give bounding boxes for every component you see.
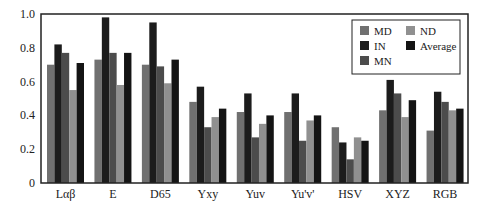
y-tick-label: 0 <box>29 176 35 190</box>
bar-average-6 <box>361 141 368 183</box>
legend-swatch-md <box>360 26 369 35</box>
x-tick-label: Lαβ <box>56 187 76 201</box>
bar-in-8 <box>434 92 441 183</box>
bar-md-5 <box>284 112 291 183</box>
bar-average-7 <box>409 100 416 183</box>
x-tick-label: E <box>109 187 116 201</box>
y-tick-label: 0.4 <box>20 108 35 122</box>
bar-md-8 <box>427 131 434 183</box>
bar-average-1 <box>124 53 131 183</box>
bar-in-6 <box>339 142 346 183</box>
bar-mn-4 <box>252 137 259 183</box>
bar-average-0 <box>77 63 84 183</box>
legend: MDNDINAverageMN <box>352 20 460 74</box>
bar-nd-0 <box>69 90 76 183</box>
y-tick-label: 0.6 <box>20 75 35 89</box>
bar-mn-6 <box>346 159 353 183</box>
x-tick-label: HSV <box>338 187 362 201</box>
bar-nd-8 <box>449 110 456 183</box>
legend-label-average: Average <box>420 40 457 52</box>
bar-nd-1 <box>117 85 124 183</box>
bar-average-3 <box>219 109 226 183</box>
bar-in-5 <box>292 93 299 183</box>
x-tick-label: D65 <box>150 187 171 201</box>
bar-nd-3 <box>212 117 219 183</box>
bar-average-4 <box>266 115 273 183</box>
bar-in-7 <box>387 80 394 183</box>
legend-swatch-average <box>406 41 415 50</box>
bar-in-0 <box>54 44 61 183</box>
bar-chart: 00.20.40.60.81.0 LαβED65YxyYuvYu'v'HSVXY… <box>0 0 493 206</box>
bar-mn-1 <box>109 53 116 183</box>
legend-swatch-in <box>360 41 369 50</box>
bar-mn-8 <box>441 102 448 183</box>
bar-average-2 <box>171 60 178 183</box>
bar-average-8 <box>456 109 463 183</box>
x-axis-ticks: LαβED65YxyYuvYu'v'HSVXYZRGB <box>56 187 458 201</box>
bar-md-7 <box>379 110 386 183</box>
legend-label-md: MD <box>374 25 392 37</box>
x-tick-label: Yu'v' <box>291 187 315 201</box>
bar-nd-4 <box>259 124 266 183</box>
bar-in-3 <box>197 87 204 183</box>
bar-average-5 <box>314 115 321 183</box>
bar-md-2 <box>142 65 149 183</box>
x-tick-label: RGB <box>433 187 458 201</box>
legend-swatch-mn <box>360 56 369 65</box>
bar-mn-2 <box>157 66 164 183</box>
bar-md-6 <box>332 127 339 183</box>
bar-mn-5 <box>299 141 306 183</box>
x-tick-label: XYZ <box>385 187 410 201</box>
bar-md-0 <box>47 65 54 183</box>
bar-nd-6 <box>354 137 361 183</box>
bar-mn-7 <box>394 93 401 183</box>
legend-swatch-nd <box>406 26 415 35</box>
bar-in-2 <box>149 22 156 183</box>
bar-mn-0 <box>62 53 69 183</box>
legend-label-in: IN <box>374 40 386 52</box>
bar-md-1 <box>94 60 101 183</box>
y-tick-label: 1.0 <box>20 7 35 21</box>
legend-label-nd: ND <box>420 25 436 37</box>
bar-in-1 <box>102 17 109 183</box>
bar-in-4 <box>244 93 251 183</box>
bar-nd-5 <box>306 120 313 183</box>
bar-nd-2 <box>164 83 171 183</box>
y-tick-label: 0.8 <box>20 41 35 55</box>
y-axis-ticks: 00.20.40.60.81.0 <box>20 7 35 190</box>
x-tick-label: Yxy <box>197 187 218 201</box>
x-tick-label: Yuv <box>246 187 265 201</box>
bar-nd-7 <box>401 117 408 183</box>
bar-md-4 <box>237 112 244 183</box>
y-tick-label: 0.2 <box>20 142 35 156</box>
bar-md-3 <box>189 102 196 183</box>
legend-label-mn: MN <box>374 55 392 67</box>
bar-mn-3 <box>204 127 211 183</box>
